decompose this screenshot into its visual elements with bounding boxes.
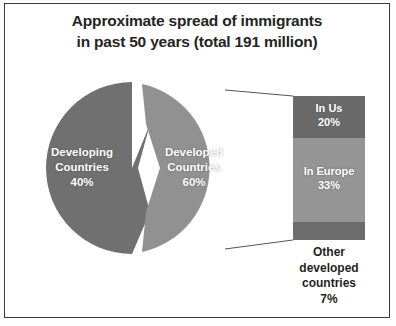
bar-caption-line-1: Other [289, 245, 369, 261]
bar-caption-line-2: developed [289, 261, 369, 277]
bar-caption-value: 7% [289, 292, 369, 308]
connector-line-top [225, 90, 293, 96]
breakout-connectors [225, 90, 293, 249]
breakout-bar [293, 96, 365, 240]
bar-caption-other-developed-countries: Other developed countries 7% [289, 245, 369, 307]
pie-slice-developing[interactable] [46, 82, 150, 254]
bar-segment-in-europe[interactable] [293, 138, 365, 222]
bar-segment-other[interactable] [293, 222, 365, 240]
pie-slice-developed[interactable] [142, 84, 210, 252]
bar-caption-line-3: countries [289, 276, 369, 292]
chart-figure: Approximate spread of immigrants in past… [0, 0, 396, 326]
connector-line-bottom [225, 240, 293, 249]
pie-chart [46, 82, 210, 254]
bar-segment-in-us[interactable] [293, 96, 365, 138]
